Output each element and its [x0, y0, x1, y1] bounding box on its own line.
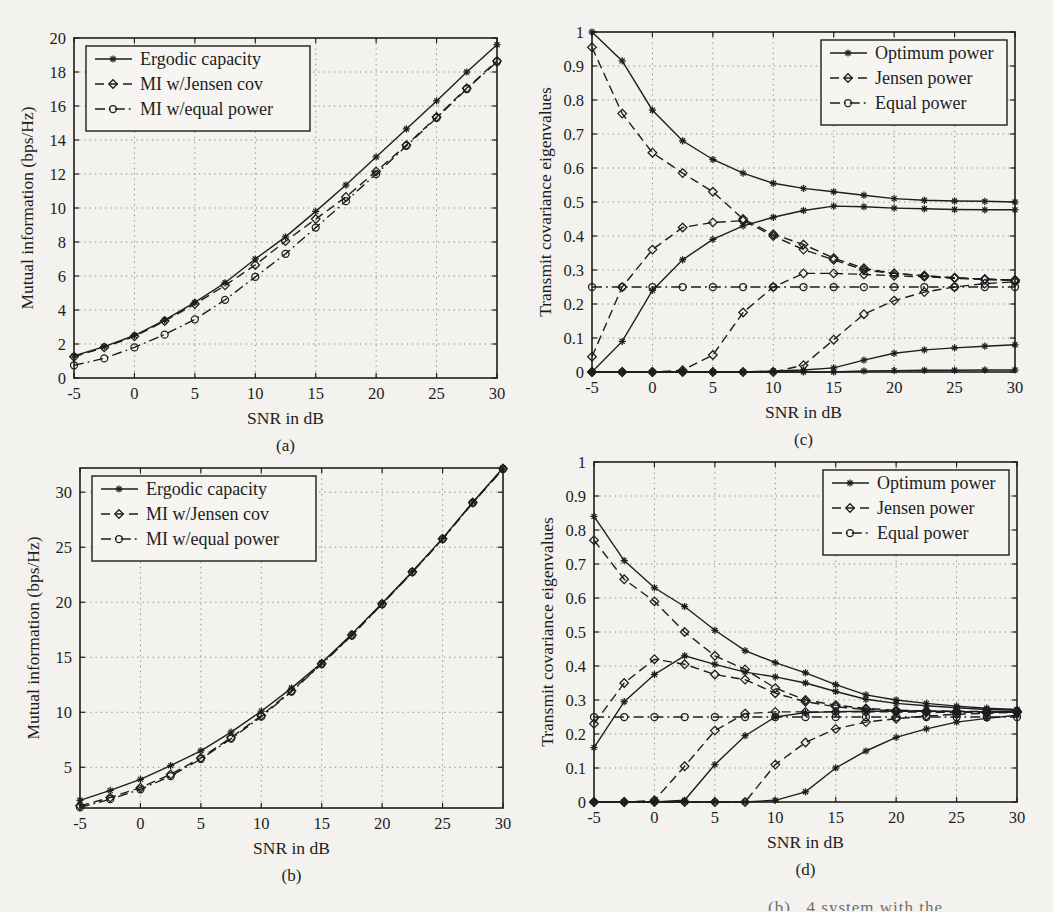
- legend: Optimum powerJensen powerEqual power: [823, 470, 1009, 555]
- star-marker: [76, 797, 83, 804]
- svg-text:0.4: 0.4: [565, 657, 586, 676]
- star-marker: [860, 203, 867, 210]
- star-marker: [893, 734, 900, 741]
- svg-text:14: 14: [50, 131, 67, 150]
- subplot-label: (b): [282, 866, 302, 885]
- subplot-label: (d): [796, 860, 816, 879]
- svg-text:0.9: 0.9: [565, 487, 586, 506]
- y-axis-label: Mutual information (bps/Hz): [18, 106, 37, 309]
- svg-text:25: 25: [56, 538, 73, 557]
- legend-label: Jensen power: [875, 68, 972, 88]
- legend-label: Optimum power: [877, 473, 996, 493]
- svg-text:-5: -5: [73, 814, 87, 833]
- star-marker: [921, 346, 928, 353]
- star-marker: [860, 357, 867, 364]
- series-optimum-power-eig-4: [590, 712, 1020, 806]
- subplot-a-canvas: -505101520253002468101214161820SNR in dB…: [18, 16, 523, 458]
- svg-text:0.1: 0.1: [563, 329, 584, 348]
- svg-text:0: 0: [130, 384, 138, 403]
- svg-text:10: 10: [50, 199, 67, 218]
- svg-text:18: 18: [50, 63, 67, 82]
- svg-text:15: 15: [313, 814, 330, 833]
- svg-text:5: 5: [711, 808, 719, 827]
- star-marker: [741, 669, 748, 676]
- svg-text:0.9: 0.9: [563, 57, 584, 76]
- star-marker: [739, 170, 746, 177]
- legend-label: MI w/Jensen cov: [140, 74, 263, 94]
- svg-text:5: 5: [191, 384, 199, 403]
- subplot-b: -505101520253051015202530SNR in dBMutual…: [24, 446, 529, 888]
- legend-label: Ergodic capacity: [140, 49, 261, 69]
- svg-text:10: 10: [765, 378, 782, 397]
- subplot-d: -505101520253000.10.20.30.40.50.60.70.80…: [538, 440, 1043, 882]
- svg-text:0.5: 0.5: [563, 193, 584, 212]
- svg-text:5: 5: [709, 378, 717, 397]
- svg-text:2: 2: [58, 335, 66, 354]
- svg-text:4: 4: [58, 301, 66, 320]
- star-marker: [590, 744, 597, 751]
- svg-text:0.3: 0.3: [565, 691, 586, 710]
- star-marker: [923, 725, 930, 732]
- star-marker: [770, 214, 777, 221]
- svg-text:0.1: 0.1: [565, 759, 586, 778]
- star-marker: [709, 156, 716, 163]
- svg-text:30: 30: [1007, 378, 1024, 397]
- svg-text:25: 25: [946, 378, 963, 397]
- star-marker: [860, 367, 867, 374]
- star-marker: [802, 669, 809, 676]
- y-axis-label: Mutual information (bps/Hz): [24, 536, 43, 739]
- x-axis-label: SNR in dB: [253, 838, 330, 858]
- star-marker: [981, 198, 988, 205]
- star-marker: [891, 350, 898, 357]
- legend-label: Equal power: [877, 523, 968, 543]
- svg-text:20: 20: [374, 814, 391, 833]
- x-axis-label: SNR in dB: [247, 408, 324, 428]
- svg-text:0.2: 0.2: [565, 725, 586, 744]
- star-marker: [921, 197, 928, 204]
- svg-text:0.4: 0.4: [563, 227, 584, 246]
- svg-text:10: 10: [56, 703, 73, 722]
- svg-text:0: 0: [576, 363, 584, 382]
- legend-label: MI w/Jensen cov: [146, 504, 269, 524]
- svg-text:5: 5: [64, 758, 72, 777]
- svg-text:15: 15: [825, 378, 842, 397]
- svg-text:20: 20: [56, 593, 73, 612]
- svg-text:5: 5: [197, 814, 205, 833]
- svg-text:0.5: 0.5: [565, 623, 586, 642]
- y-axis-label: Transmit covariance eigenvalues: [536, 87, 555, 317]
- star-marker: [681, 652, 688, 659]
- star-marker: [800, 207, 807, 214]
- svg-text:0: 0: [650, 808, 658, 827]
- svg-text:8: 8: [58, 233, 66, 252]
- svg-text:0.3: 0.3: [563, 261, 584, 280]
- star-marker: [802, 679, 809, 686]
- svg-text:0.6: 0.6: [565, 589, 586, 608]
- star-marker: [1011, 341, 1018, 348]
- svg-text:0: 0: [578, 793, 586, 812]
- star-marker: [921, 205, 928, 212]
- caption-fragment: (b) . 4 system with the: [768, 898, 1053, 911]
- circle-marker: [800, 284, 807, 291]
- star-marker: [1011, 198, 1018, 205]
- svg-text:0.7: 0.7: [563, 125, 584, 144]
- star-marker: [951, 367, 958, 374]
- svg-text:20: 20: [888, 808, 905, 827]
- subplot-d-canvas: -505101520253000.10.20.30.40.50.60.70.80…: [538, 440, 1043, 882]
- star-marker: [951, 206, 958, 213]
- svg-text:15: 15: [827, 808, 844, 827]
- svg-text:0: 0: [58, 369, 66, 388]
- legend: Optimum powerJensen powerEqual power: [821, 40, 1007, 125]
- svg-text:25: 25: [948, 808, 965, 827]
- star-marker: [830, 202, 837, 209]
- svg-text:12: 12: [50, 165, 67, 184]
- star-marker: [951, 197, 958, 204]
- svg-text:16: 16: [50, 97, 67, 116]
- legend-label: MI w/equal power: [146, 529, 279, 549]
- circle-marker: [161, 331, 168, 338]
- svg-text:-5: -5: [585, 378, 599, 397]
- subplot-c: -505101520253000.10.20.30.40.50.60.70.80…: [536, 10, 1041, 452]
- svg-text:0.6: 0.6: [563, 159, 584, 178]
- svg-text:30: 30: [489, 384, 506, 403]
- star-marker: [770, 180, 777, 187]
- star-marker: [137, 776, 144, 783]
